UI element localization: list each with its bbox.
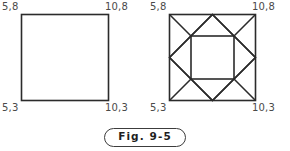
coord-label-bottom-right: 10,3: [105, 103, 128, 113]
star-spoke-right-bottom: [234, 58, 256, 80]
outer-square-shape: [22, 15, 109, 101]
coord-label-top-right: 10,8: [252, 2, 275, 12]
corner-ray-bottom-right: [234, 79, 256, 101]
star-spoke-top-left: [191, 15, 213, 37]
corner-ray-top-right: [234, 15, 256, 37]
coord-label-bottom-left: 5,3: [2, 103, 19, 113]
star-spoke-left-top: [170, 36, 192, 58]
panel-plain-square: 5,8 10,8 5,3 10,3: [0, 0, 145, 120]
figure-caption-container: Fig. 9-5: [0, 128, 290, 147]
star-spoke-right-top: [234, 36, 256, 58]
coord-label-bottom-right: 10,3: [252, 103, 275, 113]
coord-label-top-right: 10,8: [105, 2, 128, 12]
corner-ray-bottom-left: [170, 79, 192, 101]
inner-square-shape: [191, 36, 234, 79]
star-spoke-left-bottom: [170, 58, 192, 80]
panel-star-pattern-square: 5,8 10,8 5,3 10,3: [145, 0, 290, 120]
star-spoke-top-right: [213, 15, 235, 37]
star-spoke-bottom-left: [191, 79, 213, 101]
figure-caption-label: Fig. 9-5: [104, 128, 186, 147]
coord-label-top-left: 5,8: [150, 2, 167, 12]
coord-label-bottom-left: 5,3: [150, 103, 167, 113]
figure-page: 5,8 10,8 5,3 10,3: [0, 0, 290, 151]
corner-ray-top-left: [170, 15, 192, 37]
star-spoke-bottom-right: [213, 79, 235, 101]
coord-label-top-left: 5,8: [2, 2, 19, 12]
